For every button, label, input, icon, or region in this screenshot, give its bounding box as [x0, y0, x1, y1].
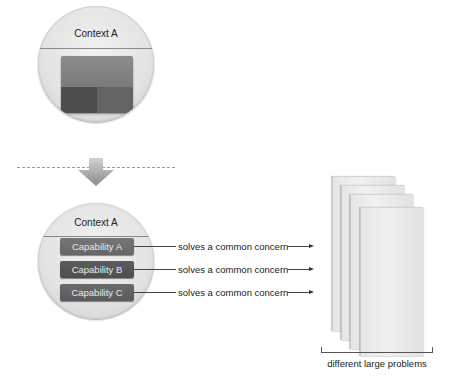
- connector-line: [287, 269, 310, 270]
- relation-label-a: solves a common concern: [178, 241, 288, 252]
- capability-a-box: Capability A: [60, 238, 134, 255]
- capability-b-box: Capability B: [60, 261, 134, 278]
- title-divider: [38, 236, 154, 237]
- capability-c-box: Capability C: [60, 284, 134, 301]
- context-a-title-top: Context A: [38, 28, 154, 39]
- context-a-title-bottom: Context A: [38, 217, 154, 228]
- connector-line: [134, 246, 176, 247]
- problems-bracket: [321, 347, 433, 353]
- problems-label: different large problems: [321, 358, 433, 369]
- relation-label-c: solves a common concern: [178, 287, 288, 298]
- context-a-circle-top: Context A: [38, 6, 154, 122]
- arrowhead-icon: [309, 267, 314, 271]
- connector-line: [134, 292, 176, 293]
- arrowhead-icon: [309, 244, 314, 248]
- title-divider: [38, 48, 154, 49]
- monolith-block: [61, 56, 133, 113]
- connector-line: [134, 269, 176, 270]
- block-top-segment: [61, 56, 133, 87]
- connector-line: [287, 292, 310, 293]
- arrowhead-icon: [309, 290, 314, 294]
- block-bottom-left-segment: [61, 87, 97, 113]
- problem-card-4: [360, 207, 423, 356]
- connector-line: [287, 246, 310, 247]
- down-arrow-icon: [74, 158, 118, 188]
- relation-label-b: solves a common concern: [178, 264, 288, 275]
- block-bottom-right-segment: [97, 87, 133, 113]
